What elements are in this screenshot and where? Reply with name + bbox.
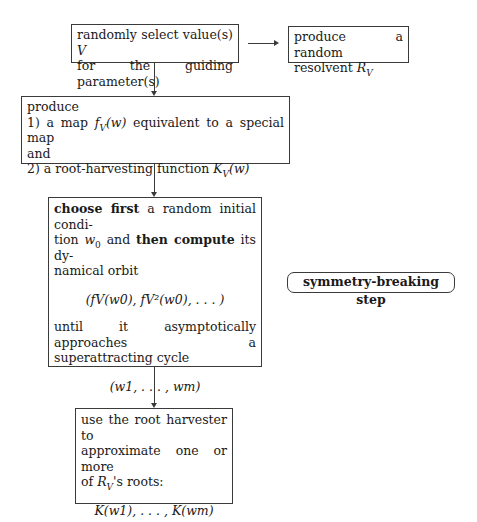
orbit-text3: namical orbit: [54, 263, 138, 278]
var-v: V: [77, 43, 86, 58]
resolvent-text-line1: produce a random: [294, 29, 403, 60]
produce-map-box: produce 1) a map fV(w) equivalent to a s…: [21, 96, 290, 164]
arrow-right-line: [248, 43, 274, 44]
symmetry-breaking-label: symmetry-breaking step: [287, 272, 455, 293]
cycle-formula: (w1, . . . , wm): [54, 379, 256, 395]
bold-choose-first: choose first: [54, 201, 139, 216]
var-w0: w: [84, 232, 95, 247]
harvest-line3-suffix: 's roots:: [113, 474, 164, 489]
harvest-line1: use the root harvester to: [81, 412, 227, 443]
orbit-text2a: tion: [54, 232, 84, 247]
orbit-box: choose first a random initial condi- tio…: [48, 197, 262, 367]
produce-heading: produce: [27, 99, 79, 114]
resolvent-text-line2: resolvent: [294, 60, 357, 75]
orbit-text2b: and: [101, 232, 136, 247]
orbit-text5: superattracting cycle: [54, 350, 189, 365]
arrow-right-head-icon: [274, 40, 279, 46]
var-r: R: [97, 474, 106, 489]
symmetry-breaking-text: symmetry-breaking step: [303, 274, 439, 307]
orbit-text4: until it asymptotically approaches a: [54, 319, 256, 350]
orbit-line1: choose first a random initial condi-: [54, 201, 256, 232]
item1-prefix: 1) a map: [27, 115, 95, 130]
select-text-line1: randomly select value(s): [77, 27, 233, 42]
produce-item1: 1) a map fV(w) equivalent to a special m…: [27, 115, 284, 146]
arrow-down-line-3: [154, 367, 155, 403]
fn-k-arg: (w): [229, 161, 249, 176]
var-r: R: [357, 60, 366, 75]
harvest-line3-prefix: of: [81, 474, 97, 489]
select-values-box: randomly select value(s) V for the guidi…: [71, 24, 239, 63]
harvest-roots-box: use the root harvester to approximate on…: [75, 408, 233, 504]
select-text-line2: for the guiding parameter(s): [77, 58, 233, 89]
harvest-line2: approximate one or more: [81, 443, 227, 474]
var-r-sub: V: [366, 68, 373, 78]
fn-f-arg: (w): [106, 115, 126, 130]
orbit-formula: (fV(w0), fV²(w0), . . . ): [54, 292, 256, 308]
item2-prefix: 2) a root-harvesting function: [27, 161, 213, 176]
harvest-formula: K(w1), . . . , K(wm): [81, 503, 227, 519]
orbit-line2: tion w0 and then compute its dy-: [54, 232, 256, 263]
item1-continuation: and: [27, 146, 51, 161]
arrow-down-line-2: [154, 164, 155, 192]
bold-then-compute: then compute: [136, 232, 235, 247]
fn-k: K: [213, 161, 222, 176]
arrow-down-line-1: [154, 63, 155, 91]
resolvent-box: produce a random resolvent RV: [288, 26, 409, 63]
